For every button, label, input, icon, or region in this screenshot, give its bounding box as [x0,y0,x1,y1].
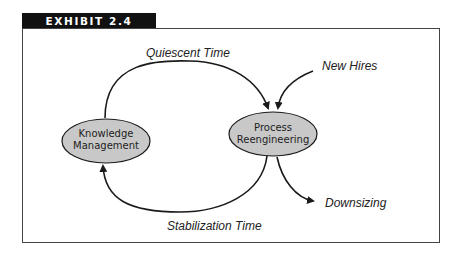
cycle-diagram: Knowledge Management Process Reengineeri… [0,0,459,259]
stabilization-time-label: Stabilization Time [167,219,262,233]
node-label-line-1: Knowledge [79,128,134,139]
new-hires-label: New Hires [322,59,377,73]
node-label-line-1: Process [254,122,292,133]
node-label-line-2: Management [73,140,139,151]
quiescent-time-label: Quiescent Time [146,46,230,60]
node-label-line-2: Reengineering [237,134,310,145]
node-knowledge-management: Knowledge Management [62,119,150,163]
quiescent-arrow [105,61,268,118]
downsizing-label: Downsizing [325,196,387,210]
stabilization-arrow [103,156,267,212]
downsizing-arrow [277,157,313,201]
node-process-reengineering: Process Reengineering [229,112,317,156]
new-hires-arrow [278,71,313,108]
